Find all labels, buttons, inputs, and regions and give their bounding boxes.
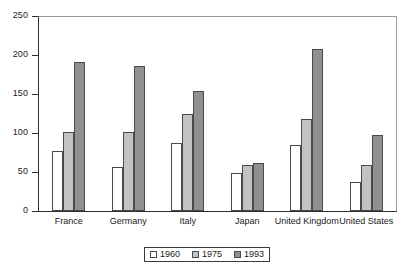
bar [372, 135, 383, 211]
y-axis-tick [32, 211, 38, 212]
bar-group [171, 16, 204, 211]
x-axis-tick-label: United Kingdom [275, 216, 339, 226]
bar [52, 151, 63, 211]
bar [123, 132, 134, 211]
y-axis-tick-label: 150 [13, 89, 28, 98]
bar-group [112, 16, 145, 211]
y-axis-tick-label: 250 [13, 11, 28, 20]
legend-label: 1960 [160, 250, 180, 259]
x-axis-tick-label: France [55, 216, 83, 226]
x-axis-tick-label: Italy [179, 216, 196, 226]
legend-swatch-icon [192, 251, 199, 258]
bar [182, 114, 193, 211]
x-axis-tick-label: Japan [235, 216, 260, 226]
legend-item: 1960 [150, 250, 180, 259]
x-axis-tick-label: United States [339, 216, 393, 226]
bar [301, 119, 312, 211]
bar-group [290, 16, 323, 211]
y-axis-tick [32, 16, 38, 17]
y-axis-tick [32, 133, 38, 134]
bar [290, 145, 301, 211]
legend-label: 1975 [202, 250, 222, 259]
y-axis-tick [32, 94, 38, 95]
bar [253, 163, 264, 211]
y-axis-tick-label: 0 [23, 206, 28, 215]
bars-layer [39, 16, 396, 211]
bar [171, 143, 182, 211]
legend-swatch-icon [150, 251, 157, 258]
bar [74, 62, 85, 211]
bar [63, 132, 74, 211]
bar-group [231, 16, 264, 211]
legend-item: 1993 [234, 250, 264, 259]
y-axis-tick-label: 100 [13, 128, 28, 137]
bar [361, 165, 372, 211]
y-axis-tick [32, 172, 38, 173]
bar [134, 66, 145, 211]
bar [312, 49, 323, 211]
legend-swatch-icon [234, 251, 241, 258]
bar [193, 91, 204, 211]
bar [350, 182, 361, 211]
x-axis-tick-label: Germany [110, 216, 147, 226]
y-axis-tick-label: 50 [18, 167, 28, 176]
bar [231, 173, 242, 211]
chart-legend: 196019751993 [144, 247, 270, 262]
y-axis-tick-label: 200 [13, 50, 28, 59]
bar-group [350, 16, 383, 211]
bar [242, 165, 253, 211]
legend-label: 1993 [244, 250, 264, 259]
bar-group [52, 16, 85, 211]
legend-item: 1975 [192, 250, 222, 259]
bar-chart: 050100150200250 FranceGermanyItalyJapanU… [0, 0, 414, 270]
bar [112, 167, 123, 211]
y-axis-tick [32, 55, 38, 56]
